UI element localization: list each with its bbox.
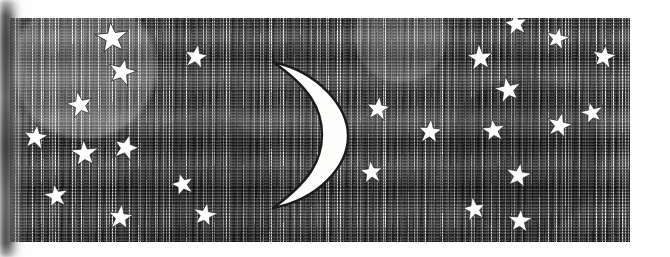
star-shape bbox=[105, 202, 135, 232]
star-shape bbox=[93, 19, 130, 56]
star-shape bbox=[492, 74, 525, 107]
illustration-canvas: Night Sky with Crescent Moon and Stars bbox=[0, 0, 670, 257]
star-shape bbox=[501, 18, 530, 39]
star-shape bbox=[190, 200, 220, 230]
crescent-moon-shape bbox=[243, 58, 350, 212]
star-shape bbox=[109, 131, 144, 166]
star-shape bbox=[502, 159, 533, 190]
star-shape bbox=[63, 88, 96, 121]
star-shape bbox=[543, 109, 575, 141]
star-shape bbox=[465, 43, 495, 73]
star-shape bbox=[589, 42, 619, 72]
sky-objects-layer bbox=[10, 18, 630, 242]
star-shape bbox=[578, 99, 607, 128]
star-shape bbox=[416, 118, 444, 146]
star-shape bbox=[542, 23, 572, 53]
star-shape bbox=[460, 195, 489, 224]
star-shape bbox=[20, 122, 50, 152]
star-shape bbox=[479, 116, 507, 144]
star-shape bbox=[69, 138, 100, 169]
star-shape bbox=[357, 158, 384, 185]
night-sky-panel bbox=[10, 18, 630, 242]
star-shape bbox=[181, 42, 211, 72]
star-shape bbox=[41, 181, 71, 211]
star-shape bbox=[506, 207, 534, 235]
star-shape bbox=[167, 169, 198, 200]
star-shape bbox=[364, 95, 393, 124]
star-shape bbox=[104, 54, 140, 90]
